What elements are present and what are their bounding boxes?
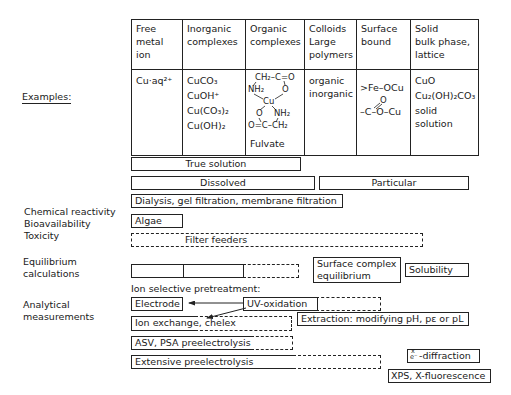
arrow-uv-to-ion-exchange-icon — [207, 308, 246, 318]
arrows-overlay — [0, 0, 511, 395]
